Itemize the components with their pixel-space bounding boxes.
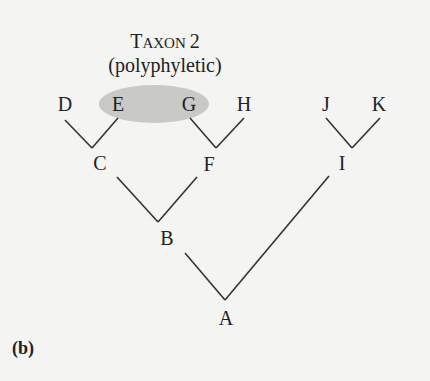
edge-I-A <box>225 176 329 300</box>
node-B: B <box>160 227 173 249</box>
node-D: D <box>58 93 72 115</box>
edge-D-C <box>65 120 92 148</box>
node-F: F <box>203 153 214 175</box>
node-J: J <box>322 93 330 115</box>
node-A: A <box>219 307 234 329</box>
edge-K-I <box>352 118 380 148</box>
cladogram-figure: TAXON2 (polyphyletic) D E G H J K C F I … <box>0 0 430 381</box>
taxon-subtitle: (polyphyletic) <box>108 54 221 77</box>
node-C: C <box>93 152 106 174</box>
edge-C-B <box>117 177 158 222</box>
node-I: I <box>339 152 346 174</box>
taxon-title: TAXON2 <box>130 30 200 52</box>
edge-J-I <box>326 118 352 148</box>
edge-B-A <box>185 253 225 300</box>
edge-F-B <box>158 177 197 222</box>
node-H: H <box>237 93 251 115</box>
edge-H-F <box>216 118 244 148</box>
edge-G-F <box>190 118 216 148</box>
node-K: K <box>372 93 387 115</box>
node-E: E <box>112 93 124 115</box>
panel-label: (b) <box>12 338 34 359</box>
node-G: G <box>182 93 196 115</box>
cladogram-svg: TAXON2 (polyphyletic) D E G H J K C F I … <box>0 0 430 381</box>
edge-E-C <box>92 118 118 148</box>
tree-edges <box>65 118 380 300</box>
